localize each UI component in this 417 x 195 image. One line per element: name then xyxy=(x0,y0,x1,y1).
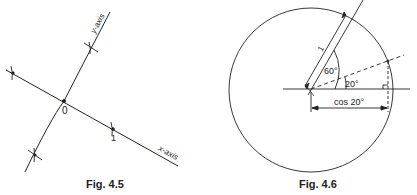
origin-mark xyxy=(305,84,314,96)
arrowhead-icon xyxy=(342,12,346,18)
origin-label: 0 xyxy=(62,105,68,116)
right-angle-mark xyxy=(383,85,388,89)
cos-20-label: cos 20° xyxy=(334,97,365,107)
x-axis-line xyxy=(6,70,178,166)
figure-4-6 xyxy=(229,0,410,172)
intersection-point xyxy=(387,60,389,62)
compass-arc-marks xyxy=(11,42,112,162)
origin-point xyxy=(63,100,66,103)
unit-label: 1 xyxy=(111,133,116,143)
figure-caption: Fig. 4.5 xyxy=(86,178,124,190)
y-axis-line xyxy=(25,12,110,172)
angle-60-label: 60° xyxy=(324,66,338,76)
figure-caption: Fig. 4.6 xyxy=(299,178,337,190)
arrowhead-icon xyxy=(312,106,318,110)
figure-4-5 xyxy=(6,12,178,172)
angle-20-label: 20° xyxy=(345,79,359,89)
arrowhead-icon xyxy=(381,106,387,110)
diagram-canvas: 0 1 y-axis x-axis Fig. 4.5 1 60° 20° cos… xyxy=(0,0,417,195)
x-axis-label: x-axis xyxy=(156,143,180,161)
